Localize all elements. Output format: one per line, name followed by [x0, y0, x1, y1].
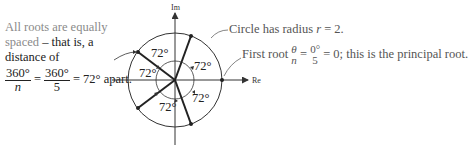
im-axis-label: Im — [171, 3, 181, 12]
frac-denominator: 5 — [310, 55, 320, 66]
first-root-annotation: First root θn = 0°5 = 0; this is the pri… — [242, 44, 468, 66]
angle-label-3: 72° — [139, 66, 157, 80]
first-root-suffix: = 0; this is the principal root. — [320, 47, 468, 61]
radius-value: = 2. — [321, 22, 344, 36]
radius-annotation: Circle has radius r = 2. — [229, 22, 344, 37]
equals-sign: = — [297, 47, 310, 61]
angle-label-1: 72° — [151, 46, 169, 60]
angle-label-2: 72° — [194, 59, 212, 73]
angle-label-4: 72° — [192, 91, 210, 105]
radius-text: Circle has radius — [229, 22, 316, 36]
first-root-leader-line — [224, 58, 241, 76]
fraction-0-over-5: 0°5 — [310, 44, 320, 66]
radius-leader-line — [211, 30, 228, 38]
angle-label-5: 72° — [159, 100, 177, 114]
first-root-prefix: First root — [242, 47, 291, 61]
re-axis-label: Re — [252, 76, 261, 85]
